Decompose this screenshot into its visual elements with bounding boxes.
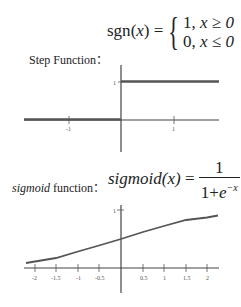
svg-text:-1: -1 xyxy=(76,275,81,281)
svg-text:1: 1 xyxy=(163,275,166,281)
svg-text:-0.5: -0.5 xyxy=(95,275,105,281)
svg-text:1.5: 1.5 xyxy=(183,275,191,281)
svg-text:1: 1 xyxy=(113,80,116,86)
charts-canvas: 1 -1 1 1 -2 -1.5 -1 -0.5 0.5 1 1.5 2 xyxy=(0,0,241,307)
sigmoid-fraction: 1 1+e−x xyxy=(199,158,240,202)
svg-text:1: 1 xyxy=(113,208,116,214)
sigmoid-formula-fn: sigmoid xyxy=(108,169,162,188)
sigmoid-formula: sigmoid(x) = 1 1+e−x xyxy=(108,158,240,202)
svg-text:-1.5: -1.5 xyxy=(51,275,61,281)
sigmoid-curve xyxy=(26,216,218,264)
svg-text:2: 2 xyxy=(206,275,209,281)
svg-text:0.5: 0.5 xyxy=(140,275,148,281)
sigmoid-chart: 1 -2 -1.5 -1 -0.5 0.5 1 1.5 2 xyxy=(24,205,219,293)
step-chart: 1 -1 1 xyxy=(24,65,219,152)
sigmoid-label: sigmoid function： xyxy=(12,178,105,196)
svg-text:-1: -1 xyxy=(66,126,71,132)
svg-text:-2: -2 xyxy=(32,275,37,281)
svg-text:1: 1 xyxy=(172,126,175,132)
